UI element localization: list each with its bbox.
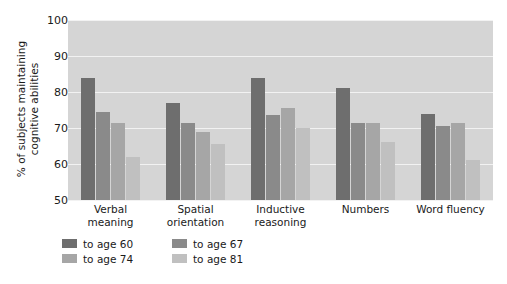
- bar-group: [153, 20, 238, 200]
- legend-item-2[interactable]: to age 74: [62, 253, 172, 265]
- bar[interactable]: [96, 112, 110, 200]
- legend-swatch-0: [62, 239, 77, 248]
- y-axis-title: % of subjects maintaining cognitive abil…: [15, 19, 41, 199]
- bar-groups: [68, 20, 493, 200]
- bar[interactable]: [466, 160, 480, 200]
- x-axis-label: Numbers: [323, 203, 408, 229]
- plot-area: [68, 20, 493, 200]
- legend-row: to age 60 to age 67: [62, 236, 312, 251]
- bar[interactable]: [296, 128, 310, 200]
- legend-item-0[interactable]: to age 60: [62, 238, 172, 250]
- bar[interactable]: [251, 78, 265, 200]
- legend-swatch-3: [172, 254, 187, 263]
- bar[interactable]: [336, 88, 350, 200]
- gridline-50: [68, 200, 493, 201]
- legend-label-2: to age 74: [83, 253, 133, 265]
- bar[interactable]: [366, 123, 380, 200]
- legend: to age 60 to age 67 to age 74 to age 81: [62, 236, 312, 266]
- bar[interactable]: [436, 126, 450, 200]
- legend-swatch-2: [62, 254, 77, 263]
- legend-label-0: to age 60: [83, 238, 133, 250]
- chart-container: % of subjects maintaining cognitive abil…: [0, 0, 507, 284]
- legend-item-3[interactable]: to age 81: [172, 253, 282, 265]
- y-tick-label-60: 60: [34, 158, 68, 171]
- y-tick-label-80: 80: [34, 86, 68, 99]
- x-axis-label: Verbal meaning: [68, 203, 153, 229]
- legend-row: to age 74 to age 81: [62, 251, 312, 266]
- bar[interactable]: [196, 132, 210, 200]
- legend-label-1: to age 67: [193, 238, 243, 250]
- bar-group: [68, 20, 153, 200]
- bar[interactable]: [211, 144, 225, 200]
- bar[interactable]: [111, 123, 125, 200]
- bar[interactable]: [126, 157, 140, 200]
- bar[interactable]: [381, 142, 395, 200]
- x-axis-labels: Verbal meaningSpatial orientationInducti…: [68, 203, 493, 229]
- y-tick-label-90: 90: [34, 50, 68, 63]
- x-axis-label: Inductive reasoning: [238, 203, 323, 229]
- bar-group: [238, 20, 323, 200]
- bar[interactable]: [351, 123, 365, 200]
- legend-label-3: to age 81: [193, 253, 243, 265]
- bar[interactable]: [281, 108, 295, 200]
- bar[interactable]: [421, 114, 435, 200]
- legend-swatch-1: [172, 239, 187, 248]
- y-tick-label-50: 50: [34, 194, 68, 207]
- legend-item-1[interactable]: to age 67: [172, 238, 282, 250]
- bar-group: [408, 20, 493, 200]
- bar[interactable]: [266, 115, 280, 200]
- x-axis-label: Spatial orientation: [153, 203, 238, 229]
- bar[interactable]: [166, 103, 180, 200]
- y-tick-label-100: 100: [34, 14, 68, 27]
- bar[interactable]: [451, 123, 465, 200]
- x-axis-label: Word fluency: [408, 203, 493, 229]
- bar-group: [323, 20, 408, 200]
- bar[interactable]: [181, 123, 195, 200]
- y-tick-label-70: 70: [34, 122, 68, 135]
- bar[interactable]: [81, 78, 95, 200]
